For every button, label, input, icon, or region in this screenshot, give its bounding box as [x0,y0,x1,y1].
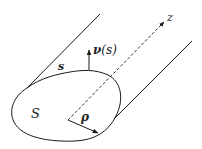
cross-section-boundary [12,70,121,141]
z-axis-label: z [167,12,173,23]
normal-argument: (s) [101,43,117,57]
arc-length-label: s [58,61,64,72]
normal-label: ν(s) [93,44,117,56]
region-label: S [31,107,40,120]
lower-generator-line [114,41,192,119]
radius-label: ρ [81,111,89,123]
